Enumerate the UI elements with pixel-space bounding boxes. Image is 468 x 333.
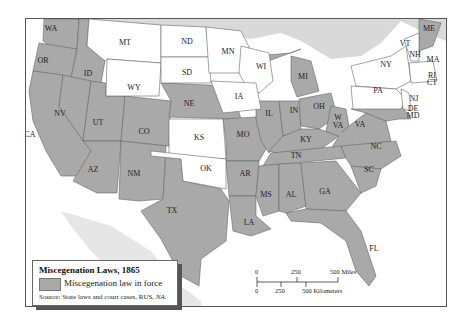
state-label-il: IL — [265, 109, 273, 118]
state-label-wy: WY — [127, 83, 141, 92]
state-label-mi: MI — [298, 72, 308, 81]
state-label-fl: FL — [369, 244, 378, 253]
state-label-ne: NE — [184, 99, 195, 108]
state-label-al: AL — [286, 190, 297, 199]
state-label-nc: NC — [370, 142, 381, 151]
legend-title: Miscegenation Laws, 1865 — [39, 265, 140, 275]
state-label-tn: TN — [291, 151, 302, 160]
scale-bar: 0 250 500 Miles 0 250 500 Kilometers — [250, 270, 350, 300]
source-text: Source: State laws and court cases, RUS, — [39, 293, 156, 301]
state-label-ga: GA — [319, 187, 331, 196]
state-label-me: ME — [423, 24, 435, 33]
legend-item-label: Miscegenation law in force — [64, 278, 162, 288]
state-label-nh: NH — [409, 50, 421, 59]
scale-miles-0: 0 — [255, 268, 258, 275]
scale-miles-250: 250 — [291, 268, 301, 275]
state-label-oh: OH — [313, 102, 325, 111]
state-label-sd: SD — [182, 68, 192, 77]
scale-miles-500: 500 Miles — [330, 268, 356, 275]
state-label-w-va: VA — [333, 121, 344, 130]
state-label-az: AZ — [88, 165, 99, 174]
state-label-mn: MN — [222, 47, 235, 56]
state-label-id: ID — [84, 69, 93, 78]
state-label-sc: SC — [364, 165, 374, 174]
state-label-mt: MT — [119, 38, 131, 47]
state-label-ma: MA — [427, 55, 440, 64]
state-label-in: IN — [290, 106, 299, 115]
state-label-va: VA — [355, 120, 366, 129]
state-label-ar: AR — [239, 169, 251, 178]
source-italic: NA. — [156, 293, 167, 301]
state-label-nm: NM — [128, 169, 141, 178]
state-label-la: LA — [244, 218, 255, 227]
state-label-ca: CA — [26, 130, 36, 139]
scale-km-250: 250 — [275, 287, 285, 294]
state-label-co: CO — [138, 127, 149, 136]
legend-source: Source: State laws and court cases, RUS,… — [39, 293, 167, 301]
state-label-tx: TX — [167, 206, 178, 215]
state-label-ny: NY — [380, 60, 392, 69]
state-label-ms: MS — [260, 190, 272, 199]
state-label-ok: OK — [200, 164, 212, 173]
state-label-or: OR — [37, 56, 49, 65]
state-label-ct: CT — [427, 78, 437, 87]
state-label-vt: VT — [400, 39, 411, 48]
state-label-nd: ND — [181, 37, 193, 46]
map-legend: Miscegenation Laws, 1865 Miscegenation l… — [32, 260, 178, 306]
state-label-ky: KY — [300, 135, 312, 144]
state-label-nv: NV — [54, 109, 66, 118]
state-label-nj: NJ — [410, 94, 419, 103]
state-label-wa: WA — [45, 24, 58, 33]
state-label-wi: WI — [256, 62, 267, 71]
scale-km-500: 500 Kilometers — [302, 287, 342, 294]
state-label-md: MD — [407, 111, 420, 120]
state-label-ia: IA — [235, 92, 244, 101]
state-label-ks: KS — [194, 133, 204, 142]
state-label-mo: MO — [237, 130, 250, 139]
law-in-force-swatch — [39, 278, 61, 291]
state-label-pa: PA — [373, 86, 383, 95]
state-label-ut: UT — [93, 118, 104, 127]
scale-km-0: 0 — [255, 287, 258, 294]
